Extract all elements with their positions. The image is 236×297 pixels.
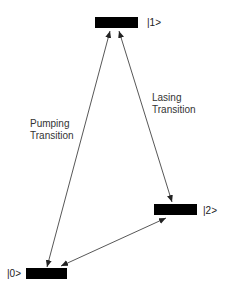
level-2-bar xyxy=(154,204,197,215)
level-0-label: |0> xyxy=(7,268,21,279)
level-0-bar xyxy=(26,268,67,279)
energy-level-diagram: |1> |2> |0> Pumping Transition Lasing Tr… xyxy=(0,0,236,297)
pumping-transition-label: Pumping Transition xyxy=(30,118,74,142)
relaxation-transition-arrow xyxy=(61,218,166,266)
lasing-transition-arrow xyxy=(119,31,172,202)
lasing-label-line1: Lasing xyxy=(152,92,196,104)
pumping-transition-arrow xyxy=(47,31,110,267)
lasing-label-line2: Transition xyxy=(152,104,196,116)
level-1-bar xyxy=(95,17,138,28)
lasing-transition-label: Lasing Transition xyxy=(152,92,196,116)
transition-arrows xyxy=(0,0,236,297)
pumping-label-line1: Pumping xyxy=(30,118,74,130)
level-1-label: |1> xyxy=(147,17,161,28)
level-2-label: |2> xyxy=(203,205,217,216)
pumping-label-line2: Transition xyxy=(30,130,74,142)
